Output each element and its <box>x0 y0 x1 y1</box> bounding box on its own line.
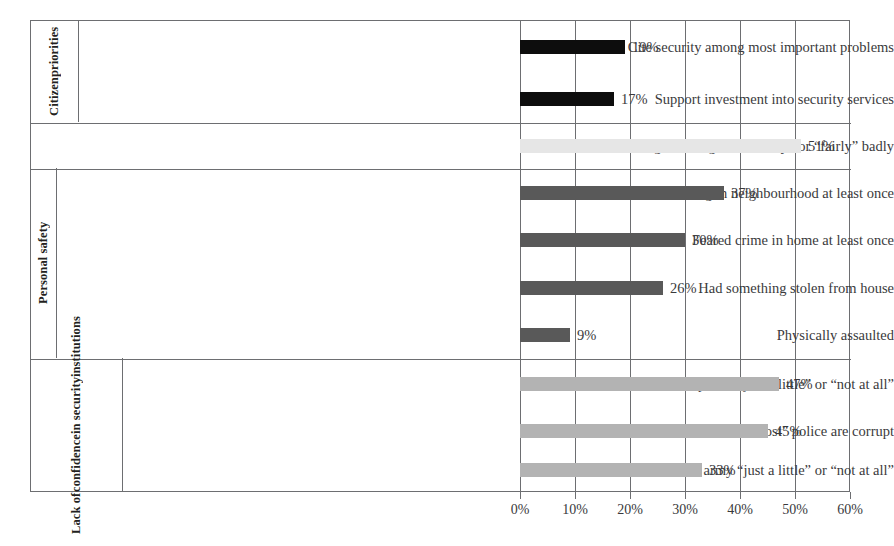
bar <box>520 40 625 54</box>
axis-tick-label: 0% <box>511 503 530 517</box>
axis-tick-label: 50% <box>782 503 808 517</box>
bar-value-label: 19% <box>632 40 659 55</box>
bar <box>520 424 768 438</box>
axis-tick-label: 30% <box>672 503 698 517</box>
bar-value-label: 33% <box>709 463 736 478</box>
axis-tick <box>685 492 686 499</box>
bar <box>520 233 685 247</box>
axis-tick <box>575 492 576 499</box>
group-caption-line: Lack of <box>69 492 83 533</box>
group-caption-line: Personal safety <box>36 222 50 304</box>
axis-tick-label: 20% <box>617 503 643 517</box>
group-caption-line: institutions <box>69 316 83 377</box>
axis-tick <box>795 492 796 499</box>
bar <box>520 328 570 342</box>
group-caption-personal-safety: Personal safety <box>30 168 56 358</box>
bar-value-label: 17% <box>621 92 648 107</box>
bar-value-label: 26% <box>670 281 697 296</box>
bar-value-label: 45% <box>775 424 802 439</box>
caption-column-rule-personal-safety <box>56 168 57 358</box>
row-label: Physically assaulted <box>514 328 894 343</box>
bar <box>520 139 801 153</box>
axis-tick-label: 60% <box>837 503 863 517</box>
bar-value-label: 37% <box>731 186 758 201</box>
axis-tick <box>630 492 631 499</box>
bar-value-label: 47% <box>786 377 813 392</box>
group-caption-line: Citizen <box>47 77 61 116</box>
bar-value-label: 30% <box>692 233 719 248</box>
caption-column-rule-lack-of-confidence <box>122 358 123 492</box>
bar <box>520 186 724 200</box>
axis-tick-label: 40% <box>727 503 753 517</box>
horizontal-bar-chart: Citizen priorities Personal safety Lack … <box>0 0 894 546</box>
group-caption-line: in security <box>69 377 83 434</box>
group-caption-citizen-priorities: Citizen priorities <box>30 20 78 122</box>
caption-column-rule-citizen-priorities <box>78 20 79 122</box>
bar-value-label: 9% <box>577 328 596 343</box>
bar-value-label: 51% <box>808 139 835 154</box>
axis-tick <box>850 492 851 499</box>
bar <box>520 463 702 477</box>
group-caption-lack-of-confidence: Lack of confidence in security instituti… <box>30 358 122 492</box>
axis-tick <box>740 492 741 499</box>
bar <box>520 377 779 391</box>
axis-tick-label: 10% <box>562 503 588 517</box>
group-caption-line: confidence <box>69 434 83 492</box>
bar <box>520 281 663 295</box>
axis-tick <box>520 492 521 499</box>
group-caption-line: priorities <box>47 26 61 76</box>
bar <box>520 92 614 106</box>
